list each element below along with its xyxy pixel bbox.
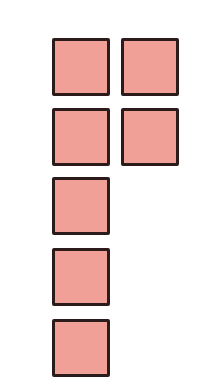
square-r5-c1 xyxy=(52,319,110,377)
square-r1-c1 xyxy=(52,38,110,96)
square-r4-c1 xyxy=(52,248,110,306)
square-r2-c1 xyxy=(52,108,110,166)
square-r3-c1 xyxy=(52,177,110,235)
square-r1-c2 xyxy=(121,38,179,96)
square-r2-c2 xyxy=(121,108,179,166)
